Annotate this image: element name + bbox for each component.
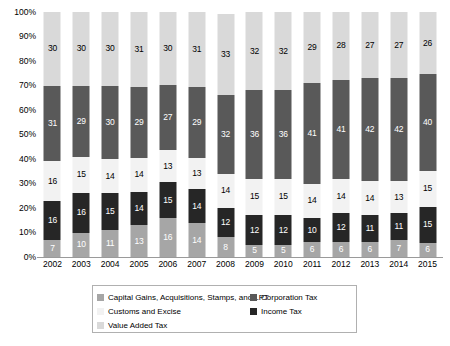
stacked-bar[interactable]: 1615132730 (159, 12, 176, 257)
bar-segment[interactable]: 13 (390, 181, 407, 213)
bar-segment[interactable]: 32 (275, 12, 292, 90)
bar-segment[interactable]: 42 (390, 78, 407, 181)
bar-segment[interactable]: 29 (304, 12, 321, 83)
stacked-bar[interactable]: 812143233 (217, 12, 234, 257)
stacked-bar[interactable]: 612144128 (332, 12, 349, 257)
stacked-bar[interactable]: 615154026 (419, 12, 436, 257)
bar-group[interactable]: 615154026 (413, 12, 442, 257)
bar-segment[interactable]: 30 (73, 12, 90, 86)
bar-segment[interactable]: 15 (159, 182, 176, 218)
bar-segment[interactable]: 42 (361, 78, 378, 181)
stacked-bar[interactable]: 610144129 (304, 12, 321, 257)
legend-item[interactable]: Corporation Tax (250, 290, 317, 304)
bar-segment[interactable]: 30 (102, 86, 119, 160)
stacked-bar[interactable]: 1314142931 (130, 12, 147, 257)
bar-segment[interactable]: 12 (275, 215, 292, 244)
bar-segment[interactable]: 15 (419, 171, 436, 207)
legend-item[interactable]: Capital Gains, Acquisitions, Stamps, and… (97, 290, 269, 304)
stacked-bar[interactable]: 512153632 (246, 12, 263, 257)
bar-group[interactable]: 1314142931 (125, 12, 154, 257)
bar-segment[interactable]: 36 (246, 90, 263, 178)
bar-group[interactable]: 1414132931 (182, 12, 211, 257)
bar-segment[interactable]: 12 (217, 208, 234, 237)
bar-group[interactable]: 716163130 (38, 12, 67, 257)
bar-segment[interactable]: 14 (188, 223, 205, 257)
bar-segment[interactable]: 10 (304, 218, 321, 243)
bar-segment[interactable]: 31 (44, 86, 61, 162)
stacked-bar[interactable]: 716163130 (44, 12, 61, 257)
bar-group[interactable]: 611144227 (355, 12, 384, 257)
bar-segment[interactable]: 28 (332, 12, 349, 80)
bar-segment[interactable]: 13 (159, 150, 176, 182)
bar-group[interactable]: 612144128 (327, 12, 356, 257)
bar-group[interactable]: 610144129 (298, 12, 327, 257)
bar-segment[interactable]: 15 (73, 157, 90, 194)
bar-segment[interactable]: 6 (361, 242, 378, 257)
bar-segment[interactable]: 36 (275, 90, 292, 178)
bar-segment[interactable]: 15 (102, 193, 119, 230)
bar-segment[interactable]: 32 (217, 95, 234, 173)
bar-segment[interactable]: 5 (246, 245, 263, 257)
bar-group[interactable]: 812143233 (211, 12, 240, 257)
bar-segment[interactable]: 26 (419, 12, 436, 74)
bar-segment[interactable]: 10 (73, 233, 90, 258)
stacked-bar[interactable]: 611144227 (361, 12, 378, 257)
bar-segment[interactable]: 16 (73, 193, 90, 232)
bar-segment[interactable]: 27 (159, 85, 176, 151)
bar-group[interactable]: 1016152930 (67, 12, 96, 257)
bar-segment[interactable]: 29 (130, 87, 147, 157)
bar-segment[interactable]: 14 (217, 174, 234, 208)
bar-segment[interactable]: 13 (130, 225, 147, 257)
bar-segment[interactable]: 30 (44, 12, 61, 86)
bar-segment[interactable]: 6 (419, 243, 436, 257)
bar-segment[interactable]: 8 (217, 237, 234, 257)
bar-segment[interactable]: 40 (419, 74, 436, 170)
bar-segment[interactable]: 16 (159, 218, 176, 257)
bar-segment[interactable]: 5 (275, 245, 292, 257)
bar-segment[interactable]: 41 (304, 83, 321, 183)
bar-segment[interactable]: 7 (44, 240, 61, 257)
bar-group[interactable]: 512153632 (240, 12, 269, 257)
bar-segment[interactable]: 14 (304, 184, 321, 218)
bar-segment[interactable]: 11 (390, 213, 407, 240)
bar-segment[interactable]: 31 (188, 12, 205, 87)
bar-segment[interactable]: 15 (419, 207, 436, 243)
bar-group[interactable]: 1115143030 (96, 12, 125, 257)
bar-group[interactable]: 711134227 (384, 12, 413, 257)
bar-segment[interactable]: 29 (188, 87, 205, 157)
bar-segment[interactable]: 13 (188, 158, 205, 190)
bar-segment[interactable]: 32 (246, 12, 263, 90)
bar-segment[interactable]: 15 (275, 179, 292, 216)
bar-segment[interactable]: 15 (246, 179, 263, 216)
bar-segment[interactable]: 14 (130, 158, 147, 192)
stacked-bar[interactable]: 512153632 (275, 12, 292, 257)
legend-item[interactable]: Income Tax (250, 304, 317, 318)
bar-segment[interactable]: 11 (361, 215, 378, 242)
bar-segment[interactable]: 33 (217, 14, 234, 95)
legend-item[interactable]: Customs and Excise (97, 304, 269, 318)
bar-segment[interactable]: 14 (332, 179, 349, 213)
bar-segment[interactable]: 6 (304, 242, 321, 257)
bar-group[interactable]: 1615132730 (153, 12, 182, 257)
bar-segment[interactable]: 14 (102, 159, 119, 193)
bar-segment[interactable]: 16 (44, 201, 61, 240)
bar-segment[interactable]: 14 (130, 192, 147, 226)
bar-segment[interactable]: 27 (390, 12, 407, 78)
bar-segment[interactable]: 16 (44, 161, 61, 200)
bar-segment[interactable]: 29 (73, 86, 90, 157)
bar-segment[interactable]: 14 (188, 189, 205, 223)
bar-segment[interactable]: 6 (332, 242, 349, 257)
bar-segment[interactable]: 41 (332, 80, 349, 179)
stacked-bar[interactable]: 711134227 (390, 12, 407, 257)
bar-segment[interactable]: 30 (102, 12, 119, 86)
bar-segment[interactable]: 30 (159, 12, 176, 85)
bar-group[interactable]: 512153632 (269, 12, 298, 257)
stacked-bar[interactable]: 1414132931 (188, 12, 205, 257)
bar-segment[interactable]: 31 (130, 12, 147, 87)
legend-item[interactable]: Value Added Tax (97, 318, 269, 332)
bar-segment[interactable]: 7 (390, 240, 407, 257)
bar-segment[interactable]: 14 (361, 181, 378, 215)
bar-segment[interactable]: 12 (246, 215, 263, 244)
stacked-bar[interactable]: 1115143030 (102, 12, 119, 257)
bar-segment[interactable]: 27 (361, 12, 378, 78)
